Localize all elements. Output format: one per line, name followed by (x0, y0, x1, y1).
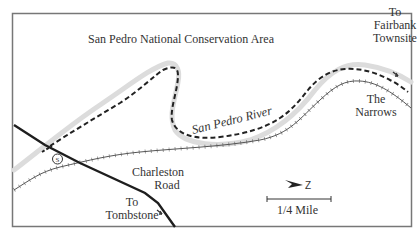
north-label: Z (305, 179, 311, 192)
tombstone-label: To Tombstone (104, 196, 160, 222)
narrows-label-line-2: Narrows (352, 106, 400, 119)
north-arrow-icon (285, 180, 303, 188)
narrows-label: The Narrows (352, 93, 400, 119)
river-label: San Pedro River (190, 103, 273, 136)
trailhead-marker: S (53, 154, 63, 164)
fairbank-label-line-3: Townsite (370, 32, 419, 45)
conservation-area-title: San Pedro National Conservation Area (88, 33, 274, 46)
scale-bar (267, 196, 331, 202)
tombstone-label-line-2: Tombstone (104, 209, 160, 222)
trailhead-symbol-text: S (56, 156, 60, 164)
scale-label: 1/4 Mile (277, 204, 318, 217)
fairbank-label: To Fairbank Townsite (370, 6, 419, 45)
charleston-road-label: Charleston Road (126, 166, 190, 192)
road-label-line-2: Road (126, 179, 190, 192)
trail-map: S San Pedro River San Pedro National Con… (0, 0, 419, 241)
